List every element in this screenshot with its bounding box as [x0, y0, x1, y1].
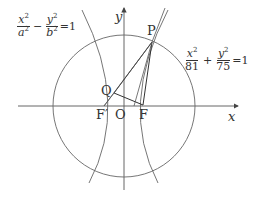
point-F-prime-label: F′	[96, 108, 108, 121]
hyperbola-equation: x2a2 − y2b2 =1	[16, 14, 76, 38]
eq-exp: 2	[25, 25, 29, 33]
x-axis-label: x	[228, 110, 235, 123]
point-P-label: P	[147, 24, 156, 37]
segment-P-tangent	[134, 42, 152, 106]
eq-operator: +	[203, 54, 212, 67]
eq-term: y	[47, 13, 53, 26]
y-axis-label: y	[115, 10, 122, 23]
eq-exp: 2	[53, 25, 57, 33]
segment-QF	[114, 93, 143, 105]
eq-rhs: =1	[232, 54, 248, 67]
eq-exp: 2	[224, 46, 228, 54]
point-Q-label: Q	[101, 84, 112, 97]
eq-term: x	[187, 47, 193, 60]
point-F-label: F	[139, 108, 148, 121]
origin-label: O	[115, 108, 126, 121]
diagram-canvas: y x O P Q F F′ x2a2 − y2b2 =1 x281 + y27…	[0, 0, 263, 201]
eq-exp: 2	[193, 46, 197, 54]
eq-term: a	[18, 26, 25, 39]
eq-term: 81	[184, 61, 200, 73]
eq-rhs: =1	[60, 20, 76, 33]
eq-term: 75	[215, 61, 231, 73]
eq-operator: −	[33, 20, 42, 33]
ellipse-equation: x281 + y275 =1	[183, 48, 248, 72]
eq-exp: 2	[53, 12, 57, 20]
eq-exp: 2	[24, 12, 28, 20]
